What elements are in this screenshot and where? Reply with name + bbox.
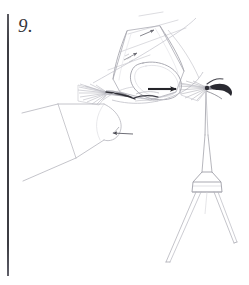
tripod-base-joint: [192, 172, 222, 192]
left-cone-outline: [22, 104, 121, 181]
tripod-leg-left: [166, 192, 201, 262]
figure-drawing: [0, 0, 249, 285]
vertical-stem: [202, 92, 212, 172]
tripod-leg-right: [214, 192, 237, 243]
dark-hooked-appendage: [205, 79, 232, 99]
tripod-leg-center: [205, 192, 207, 214]
direction-arrow-lower-left: [113, 127, 133, 134]
figure-plate: 9.: [0, 0, 249, 285]
